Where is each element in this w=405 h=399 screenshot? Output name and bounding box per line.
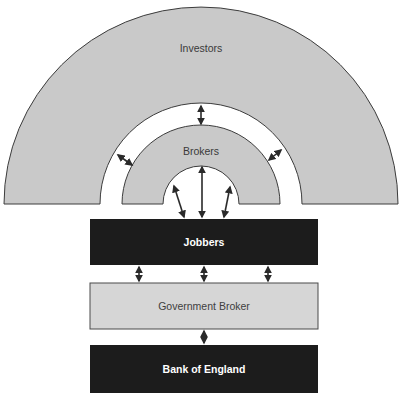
investors-ring <box>4 7 398 204</box>
bank-of-england-label: Bank of England <box>163 363 246 375</box>
double-arrow-icon <box>174 186 184 217</box>
government-broker-label: Government Broker <box>158 300 250 312</box>
double-arrow-icon <box>118 155 132 165</box>
double-arrow-icon <box>224 187 230 217</box>
investors-label: Investors <box>180 42 223 54</box>
brokers-jobbers-arrows <box>174 167 230 217</box>
jobbers-label: Jobbers <box>184 236 225 248</box>
double-arrow-icon <box>269 150 281 160</box>
jobbers-govbroker-arrows <box>139 267 268 281</box>
market-structure-diagram: Investors Brokers Jobbers Government Bro… <box>0 0 405 399</box>
brokers-label: Brokers <box>183 145 219 157</box>
brokers-ring <box>122 125 280 204</box>
